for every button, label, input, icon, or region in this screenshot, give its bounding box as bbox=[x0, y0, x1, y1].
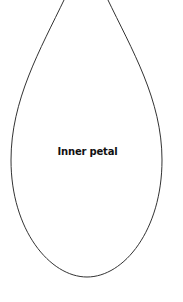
petal-label: Inner petal bbox=[0, 146, 175, 157]
petal-outline bbox=[11, 0, 162, 277]
